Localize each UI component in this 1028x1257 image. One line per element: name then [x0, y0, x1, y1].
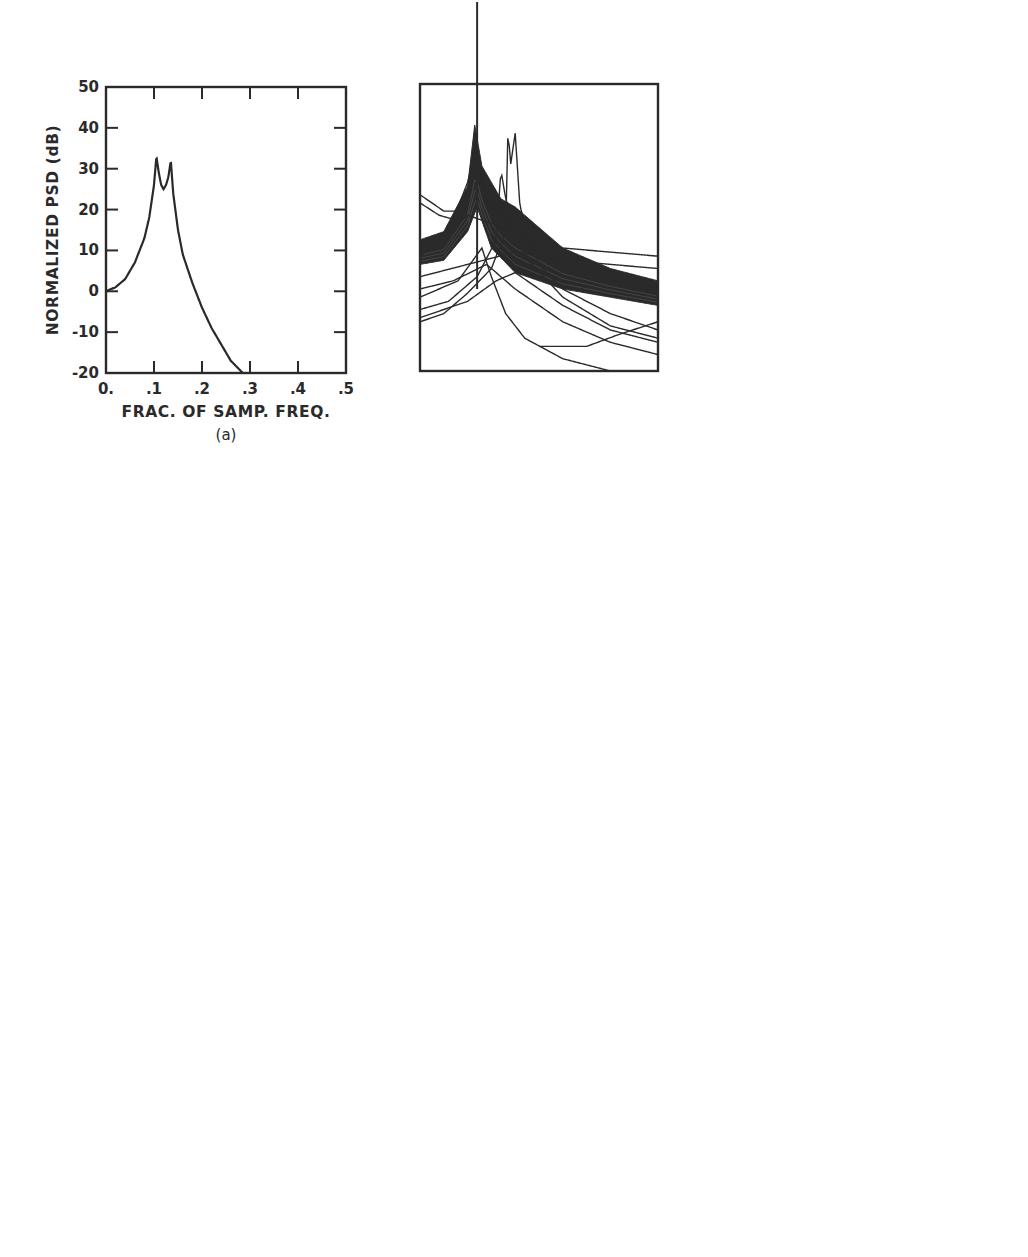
- panel-a: 0..1.2.3.4.5-20-1001020304050FRAC. OF SA…: [44, 78, 354, 444]
- panel-b: [420, 2, 658, 371]
- y-tick-label: 40: [78, 119, 99, 137]
- plot-area: [420, 125, 658, 371]
- ensemble-band: [420, 125, 658, 305]
- y-tick-label: -20: [72, 364, 99, 382]
- x-tick-label: .3: [242, 380, 258, 398]
- psd-figure-grid: 0..1.2.3.4.5-20-1001020304050FRAC. OF SA…: [0, 0, 1028, 1257]
- x-tick-label: .1: [146, 380, 162, 398]
- x-tick-label: .2: [194, 380, 210, 398]
- y-axis-label: NORMALIZED PSD (dB): [44, 125, 62, 336]
- y-tick-label: 50: [78, 78, 99, 96]
- x-tick-label: .5: [338, 380, 354, 398]
- axes-box: [106, 87, 346, 373]
- y-tick-label: 30: [78, 160, 99, 178]
- x-axis-label: FRAC. OF SAMP. FREQ.: [122, 403, 331, 421]
- x-tick-label: 0.: [98, 380, 114, 398]
- y-tick-label: 0: [89, 282, 99, 300]
- x-tick-label: .4: [290, 380, 306, 398]
- psd-curve: [106, 159, 243, 373]
- y-tick-label: -10: [72, 323, 99, 341]
- panel-label: (a): [216, 426, 237, 444]
- plot-area: [106, 159, 243, 373]
- y-tick-label: 20: [78, 201, 99, 219]
- y-tick-label: 10: [78, 241, 99, 259]
